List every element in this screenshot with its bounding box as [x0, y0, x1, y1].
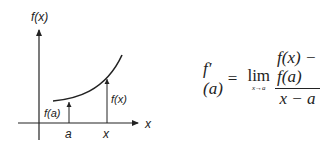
fraction-denominator: x − a: [280, 89, 316, 109]
value-at-x-label: f(x): [111, 93, 127, 105]
function-graph: f(x) x a x f(a) f(x): [0, 0, 170, 148]
value-at-a-label: f(a): [44, 107, 61, 119]
derivative-definition-formula: f′(a) = lim x→a f(x) − f(a) x − a: [203, 54, 320, 104]
y-axis-label: f(x): [31, 10, 48, 24]
formula-lhs: f′(a): [203, 59, 223, 99]
limit-operator: lim x→a: [247, 67, 270, 92]
difference-quotient: f(x) − f(a) x − a: [275, 49, 320, 108]
limit-subscript: x→a: [252, 85, 266, 92]
point-a-label: a: [65, 127, 72, 141]
x-axis-label: x: [144, 117, 152, 131]
fraction-numerator: f(x) − f(a): [275, 49, 320, 88]
point-x-label: x: [102, 127, 110, 141]
formula-equals: =: [228, 69, 238, 89]
limit-word: lim: [247, 67, 270, 84]
